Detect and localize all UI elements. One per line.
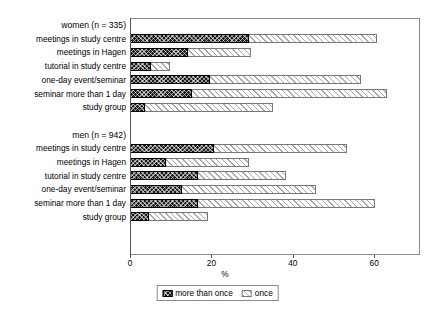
x-tick-label: 40 [281,258,305,268]
group-heading: men (n = 942) [0,131,126,140]
stacked-bar-chart: women (n = 335)meetings in study centrem… [0,0,435,315]
bar-segment-once [210,75,361,84]
category-label: study group [0,213,126,222]
bar-segment-more-than-once [131,158,166,167]
bar-segment-once [188,48,251,57]
x-axis-title: % [0,269,435,279]
legend-label-once: once [255,288,273,298]
stacked-bar [131,199,375,208]
legend-swatch-once [242,290,252,297]
bar-segment-more-than-once [131,185,182,194]
bar-segment-once [149,212,208,221]
category-label: meetings in Hagen [0,158,126,167]
stacked-bar [131,89,387,98]
stacked-bar [131,75,361,84]
bar-segment-once [249,34,377,43]
bar-segment-more-than-once [131,48,188,57]
category-label: study group [0,103,126,112]
group-heading: women (n = 335) [0,21,126,30]
bar-segment-once [182,185,316,194]
stacked-bar [131,158,249,167]
bars-layer [131,18,420,255]
stacked-bar [131,212,208,221]
category-axis-labels: women (n = 335)meetings in study centrem… [0,18,126,255]
x-tick-label: 60 [362,258,386,268]
bar-segment-once [151,62,169,71]
stacked-bar [131,144,347,153]
chart-legend: more than once once [156,285,279,301]
category-label: seminar more than 1 day [0,199,126,208]
category-label: seminar more than 1 day [0,90,126,99]
category-label: one-day event/seminar [0,185,126,194]
bar-segment-more-than-once [131,144,214,153]
category-label: one-day event/seminar [0,76,126,85]
bar-segment-more-than-once [131,34,249,43]
category-label: tutorial in study centre [0,62,126,71]
x-tick-label: 0 [118,258,142,268]
bar-segment-once [166,158,249,167]
bar-segment-more-than-once [131,75,210,84]
bar-segment-more-than-once [131,171,198,180]
x-axis-title-text: % [221,269,228,279]
category-label: meetings in study centre [0,35,126,44]
stacked-bar [131,185,316,194]
stacked-bar [131,34,377,43]
category-label: meetings in Hagen [0,48,126,57]
category-label: tutorial in study centre [0,172,126,181]
bar-segment-once [198,199,375,208]
bar-segment-once [192,89,387,98]
stacked-bar [131,48,251,57]
bar-segment-more-than-once [131,62,151,71]
bar-segment-more-than-once [131,89,192,98]
bar-segment-once [214,144,346,153]
legend-swatch-more-than-once [162,290,172,297]
bar-segment-more-than-once [131,212,149,221]
legend-label-more-than-once: more than once [175,288,233,298]
bar-segment-once [198,171,286,180]
bar-segment-more-than-once [131,199,198,208]
category-label: meetings in study centre [0,144,126,153]
bar-segment-once [145,103,273,112]
bar-segment-more-than-once [131,103,145,112]
stacked-bar [131,171,286,180]
stacked-bar [131,103,273,112]
x-tick-label: 20 [199,258,223,268]
stacked-bar [131,62,170,71]
